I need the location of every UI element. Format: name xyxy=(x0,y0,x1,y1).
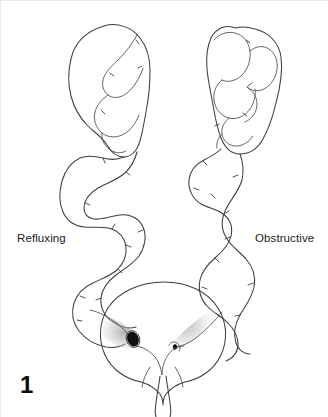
right-kidney-lower-calyx xyxy=(222,118,253,146)
left-ureter-kink-4 xyxy=(112,224,115,229)
right-kidney-upper-calyx xyxy=(214,32,250,81)
right-kidney-notch-2 xyxy=(248,83,252,86)
left-ureter-kink-2 xyxy=(126,172,130,175)
right-kidney-group xyxy=(207,26,282,154)
left-kidney-notch-1 xyxy=(110,73,114,76)
left-ureter-kink-3 xyxy=(85,203,90,205)
left-kidney-notch-2 xyxy=(101,110,105,114)
right-ureter-lateral-wall xyxy=(222,154,254,354)
right-submucosal-tunnel-shading xyxy=(173,309,216,349)
figure-number: 1 xyxy=(20,373,33,397)
left-ureter-lateral-wall xyxy=(60,156,126,347)
left-ureter-kink-9 xyxy=(96,298,101,300)
right-ureter-kink-6 xyxy=(215,258,219,262)
urethra-right-wall xyxy=(166,376,171,417)
left-ureter-kink-10 xyxy=(138,230,143,232)
figure-container: Refluxing Obstructive 1 xyxy=(0,0,328,417)
right-ureter-kink-1 xyxy=(203,161,207,165)
urethra-left-wall xyxy=(155,376,160,417)
bladder-group xyxy=(90,282,226,417)
left-ureter-kink-8 xyxy=(77,320,82,321)
left-kidney-upper-calyx xyxy=(103,35,143,97)
left-ureter-kink-7 xyxy=(80,296,85,298)
anatomical-line-drawing xyxy=(0,0,328,417)
right-kidney-upper-lateral-calyx xyxy=(247,47,277,91)
right-ureter-kink-7 xyxy=(248,283,253,285)
left-ureter-medial-wall xyxy=(84,152,145,328)
left-kidney-mid-calyx xyxy=(94,95,139,137)
left-kidney-outline xyxy=(69,25,150,157)
label-refluxing: Refluxing xyxy=(17,232,66,244)
left-ureter-kink-5 xyxy=(126,245,131,247)
left-kidney-notch-4 xyxy=(138,66,142,68)
right-ureter-kink-10 xyxy=(211,194,215,198)
left-kidney-group xyxy=(69,25,150,157)
right-ureter-kink-8 xyxy=(202,287,207,289)
right-kidney-outline xyxy=(207,26,282,154)
right-ureter-kink-2 xyxy=(233,175,238,177)
right-ureter-kink-3 xyxy=(194,188,199,190)
left-kidney-notch-3 xyxy=(136,40,139,44)
label-obstructive: Obstructive xyxy=(255,232,314,244)
right-kidney-pelvis-junction xyxy=(217,134,222,148)
